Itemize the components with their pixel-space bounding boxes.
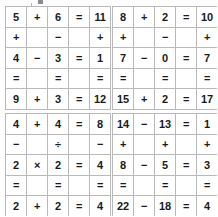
faded-number-cell[interactable]: 3 — [48, 48, 69, 69]
faded-number-cell[interactable]: 17 — [197, 89, 218, 110]
puzzle-grid-bottom-left: 4+4=8−÷−2×2=4===2+2=4 — [5, 113, 105, 212]
operator-cell[interactable]: + — [27, 89, 48, 110]
grid-body: 5+6=11+−+4−3=1===9+3=12 — [6, 7, 111, 110]
operator-cell[interactable]: − — [155, 28, 176, 48]
equals-cell[interactable]: = — [69, 155, 90, 176]
faded-number-cell[interactable]: 4 — [90, 155, 111, 176]
equals-cell[interactable]: = — [176, 155, 197, 176]
equals-cell[interactable]: = — [197, 69, 218, 89]
equals-cell[interactable]: = — [176, 196, 197, 217]
equals-cell[interactable]: = — [48, 176, 69, 196]
faded-number-cell[interactable]: 12 — [90, 89, 111, 110]
faded-number-cell[interactable]: 14 — [113, 114, 134, 135]
grid-row: +−+ — [6, 28, 111, 48]
operator-cell[interactable]: − — [134, 196, 155, 217]
equals-cell[interactable]: = — [69, 89, 90, 110]
number-cell[interactable]: 10 — [197, 7, 218, 28]
operator-cell[interactable]: + — [134, 89, 155, 110]
faded-number-cell[interactable]: 2 — [48, 155, 69, 176]
faded-number-cell[interactable]: 2 — [6, 196, 27, 217]
blocked-cell — [134, 28, 155, 48]
equals-cell[interactable]: = — [90, 69, 111, 89]
number-cell[interactable]: 4 — [6, 48, 27, 69]
top-edge-artifact — [38, 0, 43, 4]
operator-cell[interactable]: − — [134, 155, 155, 176]
operator-cell[interactable]: + — [27, 7, 48, 28]
equals-cell[interactable]: = — [48, 69, 69, 89]
grid-row: +−+ — [113, 28, 218, 48]
equals-cell[interactable]: = — [69, 48, 90, 69]
equals-cell[interactable]: = — [176, 48, 197, 69]
number-cell[interactable]: 7 — [197, 48, 218, 69]
number-cell[interactable]: 1 — [90, 48, 111, 69]
equals-cell[interactable]: = — [90, 176, 111, 196]
blocked-cell — [27, 28, 48, 48]
operator-cell[interactable]: ÷ — [48, 135, 69, 155]
number-cell[interactable]: 2 — [6, 155, 27, 176]
puzzle-sheet: 5+6=11+−+4−3=1===9+3=12 8+2=10+−+7−0=7==… — [0, 0, 217, 216]
operator-cell[interactable]: + — [197, 135, 218, 155]
operator-cell[interactable]: − — [134, 48, 155, 69]
operator-cell[interactable]: − — [27, 48, 48, 69]
equals-cell[interactable]: = — [176, 114, 197, 135]
faded-number-cell[interactable]: 5 — [155, 155, 176, 176]
operator-cell[interactable]: + — [155, 135, 176, 155]
equals-cell[interactable]: = — [155, 69, 176, 89]
blocked-cell — [176, 176, 197, 196]
number-cell[interactable]: 1 — [197, 114, 218, 135]
number-cell[interactable]: 4 — [48, 114, 69, 135]
faded-number-cell[interactable]: 7 — [113, 48, 134, 69]
faded-number-cell[interactable]: 15 — [113, 89, 134, 110]
equals-cell[interactable]: = — [69, 7, 90, 28]
operator-cell[interactable]: − — [134, 114, 155, 135]
equals-cell[interactable]: = — [176, 89, 197, 110]
faded-number-cell[interactable]: 9 — [6, 89, 27, 110]
equals-cell[interactable]: = — [197, 176, 218, 196]
equals-cell[interactable]: = — [6, 176, 27, 196]
operator-cell[interactable]: − — [6, 135, 27, 155]
blocked-cell — [27, 69, 48, 89]
grid-body: 8+2=10+−+7−0=7===15+2=17 — [113, 7, 218, 110]
equals-cell[interactable]: = — [69, 114, 90, 135]
faded-number-cell[interactable]: 22 — [113, 196, 134, 217]
equals-cell[interactable]: = — [6, 69, 27, 89]
number-cell[interactable]: 5 — [6, 7, 27, 28]
equals-cell[interactable]: = — [69, 196, 90, 217]
faded-number-cell[interactable]: 11 — [90, 7, 111, 28]
faded-number-cell[interactable]: 4 — [90, 196, 111, 217]
number-cell[interactable]: 3 — [48, 89, 69, 110]
equals-cell[interactable]: = — [113, 176, 134, 196]
operator-cell[interactable]: + — [197, 28, 218, 48]
equals-cell[interactable]: = — [155, 176, 176, 196]
number-cell[interactable]: 6 — [48, 7, 69, 28]
operator-cell[interactable]: + — [6, 28, 27, 48]
grid-row: 4+4=8 — [6, 114, 111, 135]
grid-row: 15+2=17 — [113, 89, 218, 110]
number-cell[interactable]: 3 — [197, 155, 218, 176]
operator-cell[interactable]: − — [90, 135, 111, 155]
blocked-cell — [27, 135, 48, 155]
operator-cell[interactable]: + — [134, 7, 155, 28]
operator-cell[interactable]: + — [90, 28, 111, 48]
number-cell[interactable]: 2 — [155, 89, 176, 110]
grid-row: === — [6, 176, 111, 196]
equals-cell[interactable]: = — [113, 69, 134, 89]
operator-cell[interactable]: + — [27, 196, 48, 217]
operator-cell[interactable]: + — [113, 135, 134, 155]
number-cell[interactable]: 18 — [155, 196, 176, 217]
number-cell[interactable]: 4 — [197, 196, 218, 217]
operator-cell[interactable]: × — [27, 155, 48, 176]
number-cell[interactable]: 8 — [90, 114, 111, 135]
operator-cell[interactable]: + — [113, 28, 134, 48]
number-cell[interactable]: 8 — [113, 155, 134, 176]
faded-number-cell[interactable]: 4 — [6, 114, 27, 135]
number-cell[interactable]: 13 — [155, 114, 176, 135]
number-cell[interactable]: 2 — [48, 196, 69, 217]
number-cell[interactable]: 0 — [155, 48, 176, 69]
operator-cell[interactable]: + — [27, 114, 48, 135]
blocked-cell — [176, 28, 197, 48]
number-cell[interactable]: 8 — [113, 7, 134, 28]
operator-cell[interactable]: − — [48, 28, 69, 48]
equals-cell[interactable]: = — [176, 7, 197, 28]
faded-number-cell[interactable]: 2 — [155, 7, 176, 28]
